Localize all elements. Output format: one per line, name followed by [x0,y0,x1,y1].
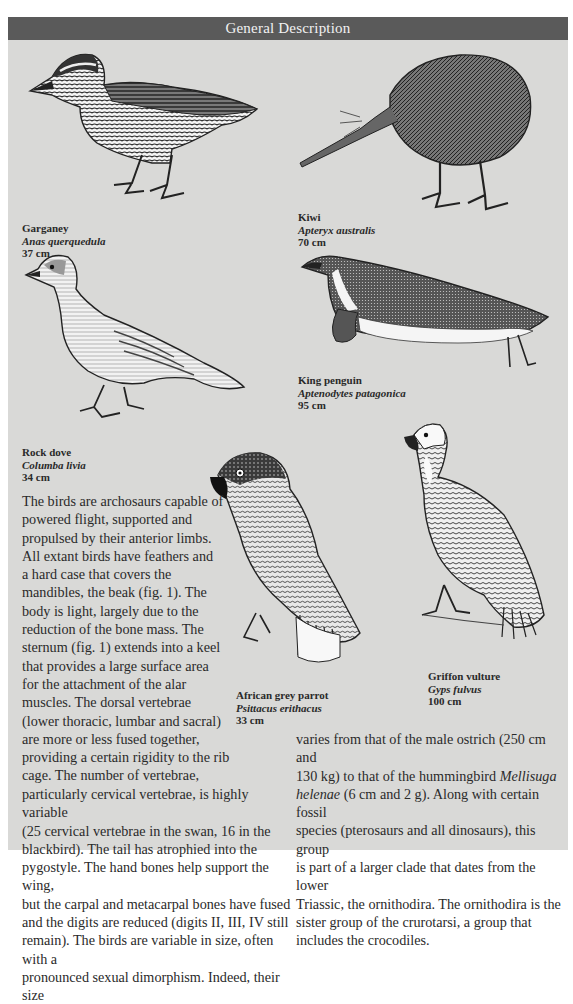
kiwi-illustration [290,47,550,217]
body-line: muscles. The dorsal vertebrae [22,693,262,711]
body-text-fragment: 130 kg) to that of the hummingbird [296,768,500,784]
body-line: pronounced sexual dimorphism. Indeed, th… [22,968,292,1004]
body-line: mandibles, the beak (fig. 1). The [22,583,262,601]
caption-common-name: Rock dove [22,446,86,459]
body-line: pygostyle. The hand bones help support t… [22,858,292,895]
caption-kiwi: Kiwi Apteryx australis 70 cm [298,211,375,249]
caption-rock-dove: Rock dove Columba livia 34 cm [22,446,86,484]
body-line: body is light, largely due to the [22,602,262,620]
body-line: powered flight, supported and [22,510,262,528]
caption-common-name: Griffon vulture [428,670,500,683]
caption-common-name: King penguin [298,374,406,387]
body-line: cage. The number of vertebrae, [22,766,262,784]
caption-latin-name: Columba livia [22,459,86,472]
caption-size: 100 cm [428,695,500,708]
king-penguin-illustration [298,239,568,377]
body-line: particularly cervical vertebrae, is high… [22,785,292,822]
body-line: (lower thoracic, lumbar and sacral) [22,712,262,730]
body-line: are more or less fused together, [22,730,262,748]
caption-latin-name: Aptenodytes patagonica [298,387,406,400]
body-line: helenae (6 cm and 2 g). Along with certa… [296,785,566,822]
section-header: General Description [8,17,568,40]
body-line: is part of a larger clade that dates fro… [296,858,566,895]
body-line: providing a certain rigidity to the rib [22,748,262,766]
body-line: sternum (fig. 1) extends into a keel [22,638,262,656]
body-line: All extant birds have feathers and [22,547,262,565]
caption-size: 37 cm [22,247,105,260]
caption-latin-name: Apteryx australis [298,224,375,237]
body-line: but the carpal and metacarpal bones have… [22,895,292,913]
body-line: sister group of the crurotarsi, a group … [296,913,566,931]
caption-king-penguin: King penguin Aptenodytes patagonica 95 c… [298,374,406,412]
body-line: varies from that of the male ostrich (25… [296,730,566,767]
body-line: The birds are archosaurs capable of [22,492,262,510]
griffon-vulture-illustration [384,415,564,645]
body-line: for the attachment of the alar [22,675,262,693]
caption-griffon-vulture: Griffon vulture Gyps fulvus 100 cm [428,670,500,708]
garganey-illustration [22,43,272,203]
body-line: propulsed by their anterior limbs. [22,529,262,547]
body-line: a hard case that covers the [22,565,262,583]
body-line: Triassic, the ornithodira. The ornithodi… [296,895,566,913]
caption-garganey: Garganey Anas querquedula 37 cm [22,222,105,260]
body-text-right-column: varies from that of the male ostrich (25… [296,730,566,950]
caption-latin-name: Gyps fulvus [428,683,500,696]
body-line: that provides a large surface area [22,657,262,675]
body-line: and the digits are reduced (digits II, I… [22,913,292,931]
caption-size: 70 cm [298,236,375,249]
section-title: General Description [225,20,350,36]
body-line: reduction of the bone mass. The [22,620,262,638]
species-name-italic: Mellisuga [500,768,557,784]
general-description-panel: General Description [8,17,568,850]
body-line: blackbird). The tail has atrophied into … [22,840,292,858]
caption-size: 95 cm [298,399,406,412]
body-line: remain). The birds are variable in size,… [22,931,292,968]
rock-dove-illustration [24,245,254,425]
caption-common-name: Kiwi [298,211,375,224]
body-line: 130 kg) to that of the hummingbird Melli… [296,767,566,785]
body-line: includes the crocodiles. [296,931,566,949]
species-name-italic: helenae [296,786,340,802]
body-line: species (pterosaurs and all dinosaurs), … [296,821,566,858]
body-text-left-column: particularly cervical vertebrae, is high… [22,785,292,1004]
caption-common-name: Garganey [22,222,105,235]
body-line: (25 cervical vertebrae in the swan, 16 i… [22,822,292,840]
body-text-narrow-column: The birds are archosaurs capable of powe… [22,492,262,785]
caption-size: 34 cm [22,471,86,484]
caption-latin-name: Anas querquedula [22,235,105,248]
